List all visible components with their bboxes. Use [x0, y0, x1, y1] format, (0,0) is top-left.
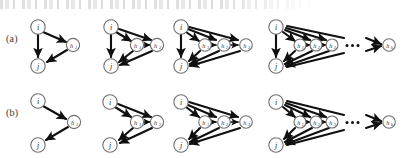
- ellipsis-dots: [346, 44, 360, 47]
- node-label-h1: h: [134, 42, 137, 49]
- node-label-h1: h: [297, 119, 300, 126]
- node-j: j: [269, 59, 283, 73]
- node-j: j: [104, 59, 118, 73]
- node-sub-h3: 3: [248, 45, 250, 50]
- node-sub-h2: 2: [318, 122, 320, 127]
- node-label-h1: h: [71, 119, 74, 126]
- panel-b-4: i h 1 h 2 h 3: [269, 95, 396, 152]
- node-h1: h 1: [294, 116, 306, 128]
- edge-i-h2: [118, 104, 151, 117]
- node-sub-h3: 3: [334, 45, 336, 50]
- node-h1: h 1: [199, 116, 212, 129]
- node-sub-h1: 1: [207, 122, 209, 127]
- node-label-i: i: [109, 98, 111, 107]
- edge-i-h1: [43, 32, 66, 42]
- panel-b-2: i h 1 h 2 j: [103, 95, 164, 152]
- panel-b-1: i h 1 j: [31, 94, 81, 152]
- node-label-h3: h: [329, 42, 332, 49]
- node-label-i: i: [275, 98, 277, 107]
- edge-i-h1: [43, 106, 66, 119]
- graph-motifs-svg: i h 1 j i: [0, 0, 406, 158]
- node-h1: h 1: [130, 38, 143, 51]
- panel-a-1: i h 1 j: [31, 20, 80, 73]
- node-i: i: [269, 95, 283, 109]
- node-h3: h 3: [240, 39, 253, 52]
- edge-in-hk-lower: [366, 123, 381, 128]
- node-h2: h 2: [150, 38, 163, 51]
- scan-artifact-strip: [0, 0, 406, 9]
- edge-in-hk-lower: [366, 46, 381, 51]
- node-label-h2: h: [154, 42, 157, 49]
- node-j: j: [269, 138, 283, 152]
- node-h1: h 1: [67, 115, 80, 128]
- figure-container: (a) (b) i h 1: [0, 0, 406, 158]
- node-sub-h1: 1: [139, 122, 141, 127]
- node-h2: h 2: [310, 116, 322, 128]
- node-label-h3: h: [243, 42, 246, 49]
- edge-h1-j: [47, 50, 67, 62]
- node-h3: h 3: [326, 39, 338, 51]
- node-sub-h1: 1: [75, 45, 77, 50]
- node-sub-h1: 1: [302, 45, 304, 50]
- node-j: j: [31, 59, 45, 73]
- panel-a-4: i h 1 h 2 h 3: [269, 20, 396, 73]
- node-sub-hk: k: [391, 122, 393, 127]
- node-label-h1: h: [134, 119, 137, 126]
- node-j: j: [174, 59, 188, 73]
- node-label-h2: h: [313, 42, 316, 49]
- node-sub-h3: 3: [334, 122, 336, 127]
- node-j: j: [103, 138, 117, 152]
- node-sub-h1: 1: [76, 122, 78, 127]
- edge-in-hk-upper: [366, 115, 381, 121]
- node-label-i: i: [37, 97, 39, 106]
- node-hk: h k: [383, 39, 396, 52]
- node-h2: h 2: [310, 39, 322, 51]
- node-h1: h 1: [66, 38, 79, 51]
- node-i: i: [31, 94, 45, 108]
- node-label-h1: h: [70, 42, 73, 49]
- node-h1: h 1: [199, 39, 212, 52]
- node-h1: h 1: [294, 39, 306, 51]
- ellipsis-dots: [346, 121, 360, 124]
- node-sub-hk: k: [391, 45, 393, 50]
- node-sub-h1: 1: [207, 45, 209, 50]
- panel-b-3: i h 1 h 2 h 3 j: [174, 95, 253, 152]
- node-h1: h 1: [130, 115, 143, 128]
- node-i: i: [174, 20, 188, 34]
- row-label-a: (a): [6, 33, 18, 44]
- node-j: j: [31, 138, 45, 152]
- node-h2: h 2: [218, 39, 231, 52]
- node-h2: h 2: [218, 116, 231, 129]
- node-label-h1: h: [202, 42, 205, 49]
- node-label-i: i: [180, 23, 182, 32]
- edge-h1-j: [46, 127, 68, 140]
- node-label-i: i: [275, 23, 277, 32]
- node-i: i: [103, 95, 117, 109]
- node-sub-h3: 3: [248, 122, 250, 127]
- node-sub-h2: 2: [318, 45, 320, 50]
- node-label-h1: h: [202, 119, 205, 126]
- node-label-i: i: [180, 98, 182, 107]
- node-i: i: [174, 95, 188, 109]
- node-label-h3: h: [243, 119, 246, 126]
- node-h2: h 2: [150, 115, 163, 128]
- node-j: j: [174, 138, 188, 152]
- node-hk: h k: [383, 116, 396, 129]
- node-sub-h1: 1: [139, 45, 141, 50]
- panel-a-3: i h 1 h 2 h 3 j: [174, 20, 253, 73]
- node-i: i: [104, 20, 118, 34]
- node-label-h2: h: [221, 119, 224, 126]
- node-label-h2: h: [313, 119, 316, 126]
- edge-in-hk-upper: [366, 38, 381, 44]
- node-i: i: [31, 20, 45, 34]
- node-label-h2: h: [221, 42, 224, 49]
- node-sub-h1: 1: [302, 122, 304, 127]
- node-label-i: i: [110, 23, 112, 32]
- node-label-hk: h: [386, 42, 389, 49]
- node-i: i: [269, 20, 283, 34]
- node-label-h2: h: [154, 119, 157, 126]
- panel-a-2: i h 1 h 2 j: [104, 20, 164, 73]
- node-label-hk: h: [386, 119, 389, 126]
- row-label-b: (b): [6, 107, 18, 118]
- node-label-h1: h: [297, 42, 300, 49]
